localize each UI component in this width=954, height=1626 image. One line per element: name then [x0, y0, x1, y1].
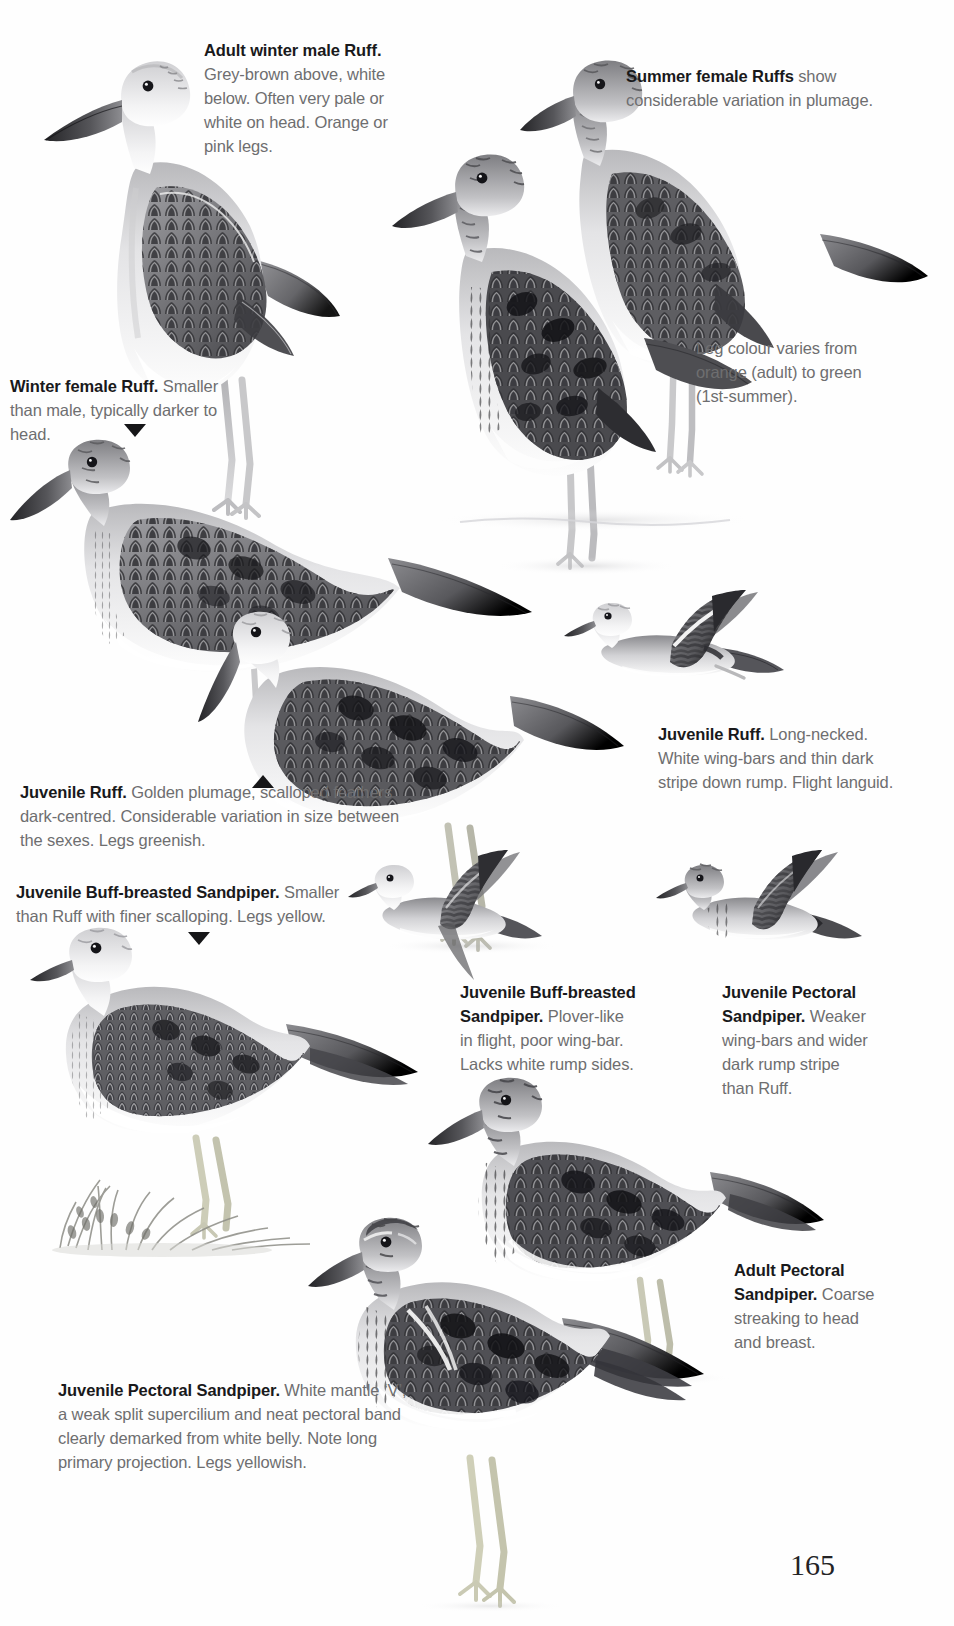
caption-juvenile-buff-breasted-standing: Juvenile Buff-breasted Sandpiper. Smalle… [16, 880, 346, 928]
pointer-triangle-up-juvenile-ruff [252, 775, 274, 788]
eye [381, 1237, 392, 1248]
caption-adult-pectoral-standing: Adult Pectoral Sandpiper. Coarse streaki… [734, 1258, 880, 1354]
caption-juvenile-ruff-flight: Juvenile Ruff. Long-necked. White wing-b… [658, 722, 894, 794]
eye [91, 943, 102, 954]
legs [460, 1458, 514, 1606]
pointer-triangle-down-winter-female [124, 424, 146, 437]
caption-adult-winter-male-ruff: Adult winter male Ruff. Grey-brown above… [204, 38, 400, 158]
bill [10, 470, 72, 520]
bill [44, 100, 122, 141]
illustration-grass-tussock [42, 1158, 322, 1258]
bill [308, 1252, 364, 1287]
caption-heading: Juvenile Ruff. [20, 783, 127, 801]
caption-juvenile-ruff-standing: Juvenile Ruff. Golden plumage, scalloped… [20, 780, 400, 852]
caption-summer-female-ruffs: Summer female Ruffs show considerable va… [626, 64, 916, 112]
caption-heading: Juvenile Ruff. [658, 725, 765, 743]
caption-heading: Juvenile Pectoral Sandpiper. [58, 1381, 280, 1399]
caption-body: Grey-brown above, white below. Often ver… [204, 65, 388, 155]
eye [604, 612, 611, 619]
eye [251, 627, 261, 637]
caption-leg-colour-note: Leg colour varies from orange (adult) to… [696, 336, 896, 408]
caption-heading: Juvenile Buff-breasted Sandpiper. [16, 883, 280, 901]
eye [477, 173, 488, 184]
eye [595, 79, 605, 89]
caption-juvenile-pectoral-standing: Juvenile Pectoral Sandpiper. White mantl… [58, 1378, 418, 1474]
illustration-juvenile-ruff-flight [562, 588, 792, 733]
bill [348, 883, 378, 897]
caption-heading: Adult winter male Ruff. [204, 41, 381, 59]
caption-heading: Winter female Ruff. [10, 377, 158, 395]
pointer-triangle-down-juvenile-buff-breasted [188, 932, 210, 945]
caption-juvenile-buff-breasted-flight: Juvenile Buff-breasted Sandpiper. Plover… [460, 980, 640, 1076]
bill [30, 960, 74, 981]
bill [428, 1110, 484, 1145]
eye [501, 1095, 511, 1105]
caption-heading: Summer female Ruffs [626, 67, 794, 85]
bill [656, 883, 688, 898]
bill [564, 621, 596, 636]
eye [87, 457, 97, 467]
caption-juvenile-pectoral-flight: Juvenile Pectoral Sandpiper. Weaker wing… [722, 980, 872, 1100]
eye [387, 875, 394, 882]
eye [143, 81, 154, 92]
field-guide-plate-page: Adult winter male Ruff. Grey-brown above… [0, 0, 954, 1626]
bill [198, 642, 240, 722]
bill [392, 192, 458, 228]
bill [520, 96, 576, 131]
page-number: 165 [790, 1548, 835, 1582]
caption-winter-female-ruff: Winter female Ruff. Smaller than male, t… [10, 374, 225, 446]
eye [697, 875, 704, 882]
caption-body: Leg colour varies from orange (adult) to… [696, 339, 862, 405]
